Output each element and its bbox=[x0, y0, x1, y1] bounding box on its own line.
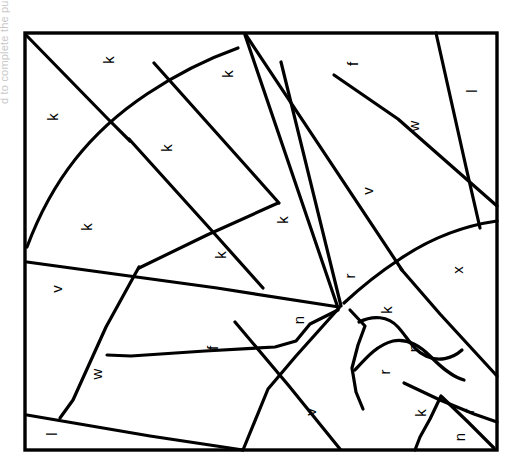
region-letter-label: v bbox=[48, 285, 65, 293]
puzzle-canvas: kkkkkkkflwvvfwlvnrkxnrkrn bbox=[0, 0, 521, 473]
region-letter-label: n bbox=[451, 433, 468, 441]
region-letter-label: k bbox=[274, 216, 291, 224]
region-letter-label: r bbox=[341, 274, 358, 279]
region-letter-label: k bbox=[378, 306, 395, 314]
region-letter-label: k bbox=[219, 70, 236, 78]
region-letter-label: l bbox=[463, 89, 480, 92]
region-letter-label: v bbox=[302, 408, 319, 416]
region-letter-label: v bbox=[359, 187, 376, 195]
region-letter-label: k bbox=[44, 113, 61, 121]
region-letter-label: n bbox=[405, 344, 422, 352]
region-letter-label: n bbox=[290, 316, 307, 324]
region-letter-label: w bbox=[88, 368, 105, 380]
region-letter-label: r bbox=[376, 370, 393, 375]
region-letter-label: w bbox=[405, 120, 422, 132]
region-letter-label: k bbox=[100, 56, 117, 64]
region-letter-label: k bbox=[78, 223, 95, 231]
puzzle-frame-border bbox=[25, 33, 497, 450]
region-letter-label: l bbox=[43, 432, 60, 435]
region-letter-label: k bbox=[212, 251, 229, 259]
region-letter-label: x bbox=[449, 266, 466, 274]
puzzle-page: d to complete the puzzle kkkkkkkflwvvfwl… bbox=[0, 0, 521, 473]
region-letter-label: k bbox=[158, 144, 175, 152]
region-letter-label: r bbox=[460, 409, 477, 414]
region-letter-label: k bbox=[412, 409, 429, 417]
